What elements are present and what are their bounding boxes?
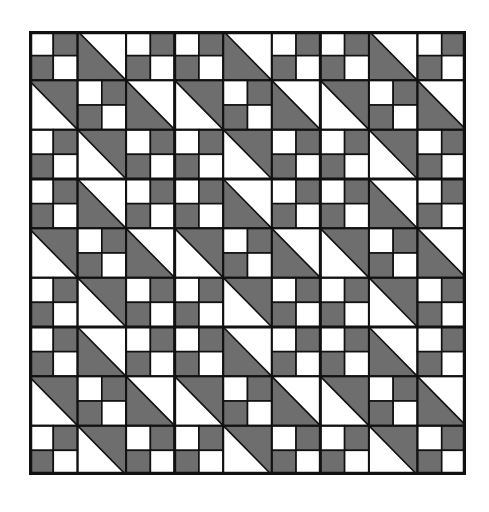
half-square-triangle-cell bbox=[223, 31, 272, 80]
half-square-triangle-cell bbox=[126, 80, 175, 129]
patch-square bbox=[369, 401, 393, 426]
half-square-triangle-cell bbox=[369, 179, 418, 228]
half-square-triangle-cell bbox=[78, 130, 127, 179]
patch-square bbox=[150, 450, 174, 475]
patch-square bbox=[417, 302, 441, 327]
patch-square bbox=[442, 352, 466, 377]
patch-square bbox=[126, 179, 150, 204]
four-patch-cell bbox=[272, 130, 321, 179]
patch-square bbox=[175, 352, 199, 377]
patch-square bbox=[53, 130, 77, 155]
patch-square bbox=[29, 450, 53, 475]
patch-square bbox=[102, 401, 126, 426]
four-patch-cell bbox=[320, 327, 369, 376]
four-patch-cell bbox=[126, 278, 175, 327]
patch-square bbox=[78, 80, 102, 105]
patch-square bbox=[150, 154, 174, 179]
patch-square bbox=[29, 204, 53, 229]
four-patch-cell bbox=[175, 327, 224, 376]
patch-square bbox=[442, 204, 466, 229]
patch-square bbox=[102, 80, 126, 105]
half-square-triangle-cell bbox=[320, 80, 369, 129]
patch-square bbox=[442, 56, 466, 81]
patch-square bbox=[442, 179, 466, 204]
patch-square bbox=[150, 56, 174, 81]
four-patch-cell bbox=[78, 228, 127, 277]
patch-square bbox=[126, 352, 150, 377]
four-patch-cell bbox=[223, 228, 272, 277]
four-patch-cell bbox=[175, 130, 224, 179]
patch-square bbox=[150, 327, 174, 352]
patch-square bbox=[320, 302, 344, 327]
four-patch-cell bbox=[223, 376, 272, 425]
quilt-block bbox=[29, 31, 175, 179]
patch-square bbox=[345, 179, 369, 204]
patch-square bbox=[296, 278, 320, 303]
four-patch-cell bbox=[29, 278, 78, 327]
patch-square bbox=[369, 228, 393, 253]
half-square-triangle-cell bbox=[29, 376, 78, 425]
patch-square bbox=[320, 56, 344, 81]
patch-square bbox=[442, 450, 466, 475]
four-patch-cell bbox=[320, 278, 369, 327]
patch-square bbox=[223, 253, 247, 278]
patch-square bbox=[175, 278, 199, 303]
half-square-triangle-cell bbox=[417, 228, 466, 277]
quilt-block bbox=[29, 179, 175, 327]
patch-square bbox=[393, 376, 417, 401]
patch-square bbox=[102, 228, 126, 253]
patch-square bbox=[272, 31, 296, 56]
patch-square bbox=[53, 204, 77, 229]
patch-square bbox=[320, 278, 344, 303]
patch-square bbox=[126, 154, 150, 179]
four-patch-cell bbox=[126, 179, 175, 228]
patch-square bbox=[102, 376, 126, 401]
patch-square bbox=[417, 56, 441, 81]
patch-square bbox=[175, 450, 199, 475]
patch-square bbox=[272, 278, 296, 303]
four-patch-cell bbox=[320, 426, 369, 475]
four-patch-cell bbox=[272, 31, 321, 80]
patch-square bbox=[248, 376, 272, 401]
half-square-triangle-cell bbox=[223, 278, 272, 327]
patch-square bbox=[126, 302, 150, 327]
patch-square bbox=[345, 56, 369, 81]
four-patch-cell bbox=[417, 327, 466, 376]
patch-square bbox=[248, 401, 272, 426]
four-patch-cell bbox=[417, 130, 466, 179]
patch-square bbox=[442, 130, 466, 155]
patch-square bbox=[53, 154, 77, 179]
half-square-triangle-cell bbox=[78, 179, 127, 228]
patch-square bbox=[199, 278, 223, 303]
patch-square bbox=[150, 426, 174, 451]
patch-square bbox=[29, 302, 53, 327]
patch-square bbox=[175, 204, 199, 229]
patch-square bbox=[345, 302, 369, 327]
four-patch-cell bbox=[175, 31, 224, 80]
patch-square bbox=[199, 426, 223, 451]
patch-square bbox=[417, 130, 441, 155]
patch-square bbox=[175, 130, 199, 155]
patch-square bbox=[78, 401, 102, 426]
four-patch-cell bbox=[369, 80, 418, 129]
patch-square bbox=[320, 327, 344, 352]
patch-square bbox=[29, 154, 53, 179]
half-square-triangle-cell bbox=[272, 80, 321, 129]
four-patch-cell bbox=[272, 426, 321, 475]
patch-square bbox=[393, 253, 417, 278]
patch-square bbox=[296, 204, 320, 229]
four-patch-cell bbox=[417, 31, 466, 80]
four-patch-cell bbox=[417, 278, 466, 327]
half-square-triangle-cell bbox=[78, 426, 127, 475]
patch-square bbox=[417, 179, 441, 204]
patch-square bbox=[272, 179, 296, 204]
four-patch-cell bbox=[78, 80, 127, 129]
half-square-triangle-cell bbox=[223, 179, 272, 228]
patch-square bbox=[199, 154, 223, 179]
patch-square bbox=[417, 204, 441, 229]
four-patch-cell bbox=[29, 31, 78, 80]
patch-square bbox=[272, 154, 296, 179]
half-square-triangle-cell bbox=[272, 228, 321, 277]
half-square-triangle-cell bbox=[369, 426, 418, 475]
patch-square bbox=[53, 327, 77, 352]
